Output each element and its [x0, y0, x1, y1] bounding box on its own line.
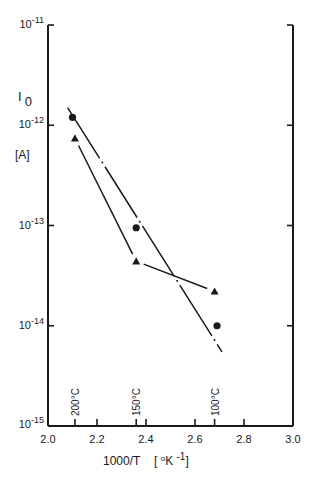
- temperature-label: 200°C: [70, 388, 81, 416]
- x-axis-unit: [ oK -1]: [154, 451, 189, 468]
- y-axis-ticks: 10-1110-1210-1310-1410-15: [19, 15, 293, 430]
- y-tick-label: 10-11: [19, 15, 44, 30]
- circle-fit-line: [68, 108, 222, 352]
- y-tick-base: 10: [19, 118, 31, 130]
- temperature-label: 150°C: [131, 388, 142, 416]
- x-tick-label: 2.2: [89, 433, 104, 445]
- y-tick-label: 10-13: [19, 216, 44, 231]
- circle-marker: [133, 224, 140, 231]
- y-tick-label: 10-14: [19, 316, 44, 331]
- y-axis-label-sub: 0: [25, 94, 32, 109]
- y-tick-exponent: -11: [32, 15, 44, 25]
- circle-marker: [213, 322, 220, 329]
- y-tick-base: 10: [19, 418, 31, 430]
- triangle-marker: [71, 134, 79, 141]
- fit-lines: [68, 108, 222, 352]
- triangle-connect-line: [144, 264, 207, 288]
- x-axis-unit-text: [: [154, 454, 158, 468]
- y-tick-base: 10: [19, 219, 31, 231]
- temperature-label: 100°C: [210, 388, 221, 416]
- triangle-marker: [211, 287, 219, 294]
- circle-marker: [69, 114, 76, 121]
- bracket-close: ]: [185, 454, 188, 468]
- y-tick-exponent: -14: [31, 316, 44, 326]
- x-axis-ticks: 2.02.22.42.62.83.0: [40, 419, 300, 445]
- y-tick-base: 10: [19, 319, 31, 331]
- y-tick-exponent: -13: [31, 216, 44, 226]
- plot-axes: [48, 25, 293, 426]
- x-tick-label: 2.6: [187, 433, 202, 445]
- kelvin-symbol: K: [165, 454, 176, 468]
- y-tick-base: 10: [19, 18, 31, 30]
- x-axis-label: 1000/T: [103, 454, 141, 468]
- y-axis-unit: [A]: [15, 148, 30, 162]
- y-axis-label-i: I: [18, 89, 22, 104]
- y-tick-label: 10-12: [19, 115, 44, 130]
- arrhenius-chart: 10-1110-1210-1310-1410-15 2.02.22.42.62.…: [0, 0, 315, 478]
- x-tick-label: 2.0: [40, 433, 55, 445]
- x-tick-label: 2.4: [138, 433, 153, 445]
- y-tick-exponent: -12: [31, 115, 44, 125]
- x-tick-label: 2.8: [236, 433, 251, 445]
- x-tick-label: 3.0: [285, 433, 300, 445]
- y-tick-label: 10-15: [19, 415, 44, 430]
- triangle-marker: [132, 257, 140, 264]
- y-tick-exponent: -15: [31, 415, 44, 425]
- y-axis-label: I0: [18, 89, 32, 109]
- triangle-connect-line: [79, 146, 133, 255]
